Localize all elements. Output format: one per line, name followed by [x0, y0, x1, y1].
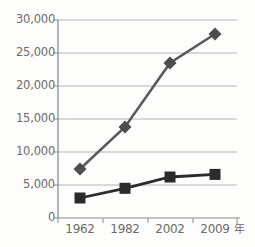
series-diamond-line	[80, 34, 215, 169]
plot-area	[0, 0, 255, 247]
x-axis-tick-label: 1962	[57, 223, 103, 235]
y-axis-line	[53, 20, 58, 218]
x-axis-tick-label: 2002	[147, 223, 193, 235]
series-square-line	[80, 174, 215, 198]
line-chart: 30,000 25,000 20,000 15,000 10,000 5,000…	[0, 0, 255, 247]
x-axis-tick-label: 1982	[102, 223, 148, 235]
x-axis-tick-label: 2009	[192, 223, 238, 235]
gridlines	[58, 20, 237, 185]
x-axis-unit-label: 年	[234, 224, 245, 235]
